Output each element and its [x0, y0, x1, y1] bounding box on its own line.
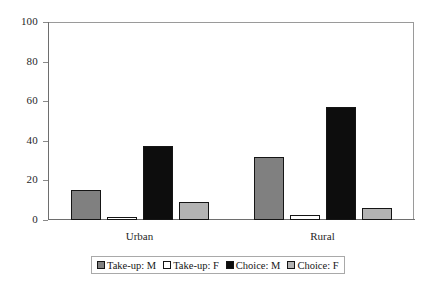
y-axis-label-80: 80: [0, 56, 38, 67]
x-axis-label-rural: Rural: [283, 230, 363, 242]
bar: [290, 215, 320, 220]
bar: [143, 146, 173, 220]
legend-item-choice-f[interactable]: Choice: F: [287, 260, 338, 271]
legend-item-label: Take-up: F: [173, 260, 219, 271]
legend-swatch-icon: [97, 261, 105, 269]
legend: Take-up: M Take-up: F Choice: M Choice: …: [91, 256, 345, 274]
legend-item-take-up-m[interactable]: Take-up: M: [97, 260, 156, 271]
legend-item-label: Choice: F: [297, 260, 338, 271]
bars-container: [48, 22, 414, 220]
y-axis-label-40: 40: [0, 135, 38, 146]
legend-swatch-icon: [163, 261, 171, 269]
bar: [326, 107, 356, 220]
bar: [362, 208, 392, 220]
bar: [107, 217, 137, 220]
bar: [179, 202, 209, 220]
bar-chart: 100 80 60 40 20 0 Urban Rural Take-up: M…: [0, 0, 431, 287]
y-axis-label-0: 0: [0, 214, 38, 225]
legend-item-choice-m[interactable]: Choice: M: [226, 260, 281, 271]
x-axis-label-urban: Urban: [100, 230, 180, 242]
legend-item-label: Choice: M: [236, 260, 281, 271]
y-axis-label-60: 60: [0, 95, 38, 106]
legend-swatch-icon: [226, 261, 234, 269]
y-axis-label-100: 100: [0, 16, 38, 27]
bar: [71, 190, 101, 220]
legend-swatch-icon: [287, 261, 295, 269]
bar: [254, 157, 284, 220]
legend-item-take-up-f[interactable]: Take-up: F: [163, 260, 219, 271]
legend-item-label: Take-up: M: [107, 260, 156, 271]
y-axis-label-20: 20: [0, 174, 38, 185]
